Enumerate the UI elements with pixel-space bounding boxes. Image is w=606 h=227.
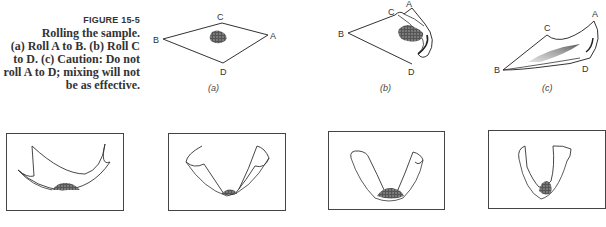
sample-pile — [210, 30, 227, 43]
subfigure-label-c: (c) — [542, 83, 553, 93]
corner-c-label: C — [388, 7, 395, 17]
panel-a-flat-sheet: B C A D (a) — [150, 0, 300, 110]
subfigure-label-b: (b) — [380, 83, 391, 93]
rolling-arrow — [586, 38, 593, 52]
corner-a-label: A — [270, 31, 276, 41]
caption-line-5: be as effective. — [0, 79, 140, 92]
sample-pile — [221, 190, 237, 195]
corner-d-label: D — [582, 64, 589, 74]
sample-pile — [52, 183, 80, 190]
figure-caption: FIGURE 15-5 Rolling the sample. (a) Roll… — [0, 14, 140, 92]
corner-c-label: C — [544, 23, 551, 33]
panel-b-roll-c-to-d: B C A D (b) — [300, 0, 450, 110]
bottom-panel-stage-2 — [168, 133, 286, 211]
corner-a-label: A — [592, 9, 598, 19]
corner-b-label: B — [153, 35, 159, 45]
corner-d-label: D — [408, 67, 415, 77]
bottom-panel-stage-1 — [6, 133, 124, 211]
sample-pile — [398, 25, 423, 42]
corner-c-label: C — [217, 12, 224, 22]
sample-pile — [377, 188, 404, 199]
bottom-panel-stage-4 — [488, 130, 606, 209]
bottom-panel-stage-3 — [328, 131, 445, 210]
corner-b-label: B — [494, 65, 500, 75]
corner-d-label: D — [220, 67, 227, 77]
subfigure-label-a: (a) — [208, 83, 219, 93]
corner-a-label: A — [406, 0, 412, 9]
panel-c-caution-roll-a-to-d: B C A D (c) — [450, 0, 606, 110]
corner-b-label: B — [338, 29, 344, 39]
sample-pile — [539, 181, 552, 195]
